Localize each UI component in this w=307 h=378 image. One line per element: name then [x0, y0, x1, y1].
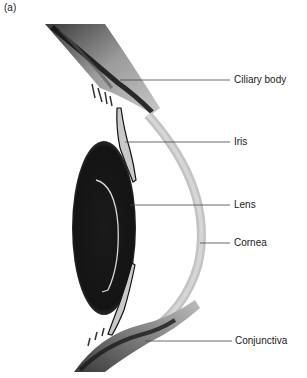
eye-cross-section-illustration — [0, 0, 307, 378]
label-cornea: Cornea — [234, 237, 267, 249]
label-conjunctiva: Conjunctiva — [235, 335, 287, 347]
ciliary-body-shape — [45, 24, 160, 114]
conjunctiva-shape — [74, 300, 200, 372]
label-ciliary-body: Ciliary body — [234, 74, 286, 86]
label-iris: Iris — [234, 136, 247, 148]
label-lens: Lens — [234, 199, 256, 211]
